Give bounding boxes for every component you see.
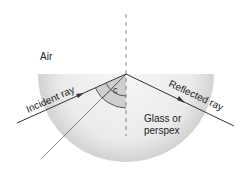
angle-c-label: c xyxy=(113,85,118,95)
refraction-diagram: Air Incident ray Reflected ray Glass or … xyxy=(0,0,242,175)
air-label: Air xyxy=(40,51,53,62)
medium-label-line2: perspex xyxy=(144,125,180,136)
medium-label-line1: Glass or xyxy=(144,113,182,124)
